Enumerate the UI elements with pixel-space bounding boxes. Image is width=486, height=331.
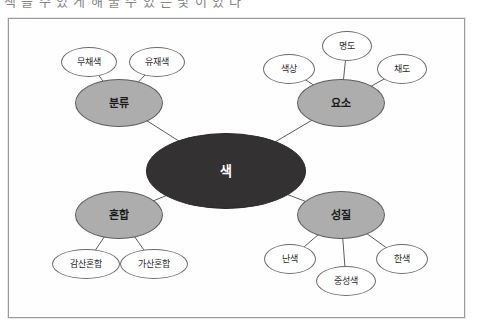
node-leaf-hansaek-label: 한색 [394, 254, 410, 263]
node-branch-bunryu[interactable]: 분류 [75, 79, 163, 127]
header-text-remnant: 색 을 수 있 게 해 줄 수 있 는 빛 이 있 다 [0, 0, 486, 11]
node-leaf-yuchaesaek-label: 유재색 [145, 57, 169, 66]
node-leaf-gamsan-honhap[interactable]: 감산혼합 [52, 249, 120, 279]
node-leaf-gamsan-honhap-label: 감산혼합 [70, 259, 102, 268]
node-branch-yoso-label: 요소 [331, 97, 351, 109]
node-leaf-myeongdo-label: 명도 [339, 41, 355, 50]
node-leaf-hansaek[interactable]: 한색 [376, 244, 428, 274]
node-leaf-jungseongsaek[interactable]: 중성색 [316, 266, 376, 296]
node-leaf-jungseongsaek-label: 중성색 [334, 276, 358, 285]
node-branch-seongjil-label: 성질 [331, 209, 351, 221]
diagram-canvas: 색분류무채색유재색요소색상명도채도혼합감산혼합가산혼합성질난색중성색한색 [9, 19, 464, 317]
node-leaf-muchaesaek[interactable]: 무채색 [61, 47, 117, 77]
node-branch-bunryu-label: 분류 [109, 97, 129, 109]
node-branch-honhap-label: 혼합 [109, 209, 129, 221]
node-center-saek-label: 색 [220, 164, 232, 178]
node-leaf-chaedo[interactable]: 채도 [377, 54, 427, 84]
node-branch-yoso[interactable]: 요소 [297, 79, 385, 127]
header-remnant-label: 색 을 수 있 게 해 줄 수 있 는 빛 이 있 다 [4, 0, 242, 10]
node-branch-honhap[interactable]: 혼합 [75, 191, 163, 239]
node-leaf-saeksang[interactable]: 색상 [263, 54, 315, 84]
node-leaf-nansaek-label: 난색 [282, 254, 298, 263]
node-leaf-gasan-honhap[interactable]: 가산혼합 [120, 249, 188, 279]
node-leaf-myeongdo[interactable]: 명도 [322, 31, 372, 61]
diagram-frame: 색분류무채색유재색요소색상명도채도혼합감산혼합가산혼합성질난색중성색한색 [8, 18, 465, 318]
node-leaf-nansaek[interactable]: 난색 [264, 244, 316, 274]
node-leaf-muchaesaek-label: 무채색 [77, 57, 101, 66]
node-leaf-yuchaesaek[interactable]: 유재색 [129, 47, 185, 77]
node-branch-seongjil[interactable]: 성질 [297, 191, 385, 239]
node-center-saek[interactable]: 색 [146, 133, 306, 209]
node-leaf-gasan-honhap-label: 가산혼합 [138, 259, 170, 268]
node-leaf-chaedo-label: 채도 [394, 64, 410, 73]
node-leaf-saeksang-label: 색상 [281, 64, 297, 73]
